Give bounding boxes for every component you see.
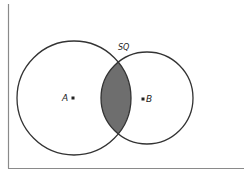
label-a: A	[62, 94, 68, 103]
venn-diagram	[0, 0, 244, 176]
center-marker-b	[142, 98, 145, 101]
label-b: B	[146, 95, 152, 104]
center-marker-a	[72, 97, 75, 100]
label-intersection-point: SQ	[118, 44, 129, 52]
